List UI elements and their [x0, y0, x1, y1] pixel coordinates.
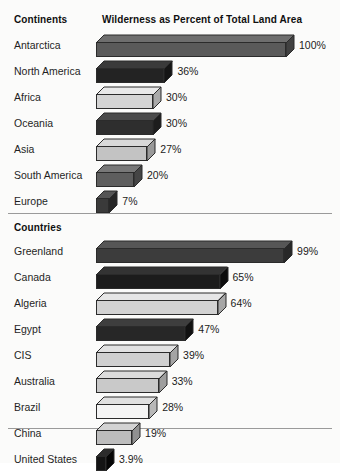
bar-row: Greenland99%	[0, 238, 340, 264]
bar-value-label: 3.9%	[119, 446, 143, 472]
bar-category-label: Algeria	[14, 290, 47, 316]
bar-row: China19%	[0, 420, 340, 446]
bar-row: Oceania30%	[0, 110, 340, 136]
bar-category-label: United States	[14, 446, 77, 472]
bar-front-face	[96, 42, 286, 57]
bar-side-face	[132, 423, 140, 445]
continents-bar-group: Antarctica100%North America36%Africa30%O…	[0, 32, 340, 214]
bar-category-label: Australia	[14, 368, 55, 394]
bar-3d	[96, 165, 142, 187]
bar-row: North America36%	[0, 58, 340, 84]
bar-side-face	[284, 241, 292, 263]
bar-side-face	[159, 371, 167, 393]
bar-value-label: 65%	[233, 264, 254, 290]
bar-3d	[96, 87, 161, 109]
bar-row: Brazil28%	[0, 394, 340, 420]
bar-3d	[96, 449, 114, 471]
bar-value-label: 99%	[297, 238, 318, 264]
bar-category-label: Africa	[14, 84, 41, 110]
bar-value-label: 19%	[145, 420, 166, 446]
bar-3d	[96, 397, 157, 419]
bar-side-face	[170, 345, 178, 367]
bar-row: Algeria64%	[0, 290, 340, 316]
bar-category-label: Europe	[14, 188, 48, 214]
bar-side-face	[164, 61, 172, 83]
bar-front-face	[96, 146, 147, 161]
bar-side-face	[153, 113, 161, 135]
bar-front-face	[96, 300, 218, 315]
bar-row: United States3.9%	[0, 446, 340, 472]
bar-front-face	[96, 430, 132, 445]
countries-bar-group: Greenland99%Canada65%Algeria64%Egypt47%C…	[0, 238, 340, 472]
bar-3d	[96, 423, 140, 445]
bar-3d	[96, 267, 228, 289]
bar-value-label: 7%	[122, 188, 137, 214]
bar-category-label: CIS	[14, 342, 32, 368]
bar-3d	[96, 35, 294, 57]
bar-category-label: North America	[14, 58, 81, 84]
bar-row: Canada65%	[0, 264, 340, 290]
bar-side-face	[149, 397, 157, 419]
continents-section-heading: Continents	[14, 14, 67, 25]
bar-side-face	[286, 35, 294, 57]
bar-3d	[96, 191, 117, 213]
bar-row: CIS39%	[0, 342, 340, 368]
bar-row: South America20%	[0, 162, 340, 188]
bar-3d	[96, 139, 155, 161]
bar-front-face	[96, 274, 220, 289]
bar-side-face	[153, 87, 161, 109]
bar-value-label: 39%	[183, 342, 204, 368]
bar-category-label: Canada	[14, 264, 51, 290]
bar-category-label: Antarctica	[14, 32, 61, 58]
countries-section-heading: Countries	[14, 222, 62, 233]
bar-front-face	[96, 68, 164, 83]
bar-side-face	[147, 139, 155, 161]
bar-row: Antarctica100%	[0, 32, 340, 58]
bar-front-face	[96, 94, 153, 109]
bar-side-face	[109, 191, 117, 213]
bar-value-label: 20%	[147, 162, 168, 188]
bar-front-face	[96, 172, 134, 187]
bar-3d	[96, 113, 161, 135]
bar-3d	[96, 241, 292, 263]
bar-3d	[96, 293, 226, 315]
bar-row: Australia33%	[0, 368, 340, 394]
bar-row: Egypt47%	[0, 316, 340, 342]
bar-category-label: Asia	[14, 136, 34, 162]
bar-category-label: Brazil	[14, 394, 40, 420]
bar-side-face	[134, 165, 142, 187]
bar-3d	[96, 319, 193, 341]
bar-value-label: 100%	[299, 32, 326, 58]
bar-category-label: China	[14, 420, 41, 446]
bar-3d	[96, 371, 167, 393]
bar-side-face	[218, 293, 226, 315]
bar-front-face	[96, 456, 106, 471]
bar-row: Africa30%	[0, 84, 340, 110]
bar-category-label: Egypt	[14, 316, 41, 342]
bar-front-face	[96, 248, 284, 263]
bar-value-label: 27%	[160, 136, 181, 162]
bar-side-face	[106, 449, 114, 471]
bar-value-label: 30%	[166, 84, 187, 110]
chart-title: Wilderness as Percent of Total Land Area	[102, 14, 302, 25]
bar-front-face	[96, 378, 159, 393]
bar-value-label: 28%	[162, 394, 183, 420]
bar-value-label: 36%	[177, 58, 198, 84]
bar-front-face	[96, 352, 170, 367]
bar-value-label: 64%	[231, 290, 252, 316]
bar-3d	[96, 345, 178, 367]
bar-front-face	[96, 404, 149, 419]
bar-front-face	[96, 120, 153, 135]
bar-front-face	[96, 326, 185, 341]
bar-row: Europe7%	[0, 188, 340, 214]
bar-3d	[96, 61, 172, 83]
bar-category-label: Oceania	[14, 110, 53, 136]
bar-value-label: 30%	[166, 110, 187, 136]
bar-category-label: South America	[14, 162, 82, 188]
bar-row: Asia27%	[0, 136, 340, 162]
bar-value-label: 33%	[172, 368, 193, 394]
bar-front-face	[96, 198, 109, 213]
bar-category-label: Greenland	[14, 238, 63, 264]
bar-value-label: 47%	[198, 316, 219, 342]
